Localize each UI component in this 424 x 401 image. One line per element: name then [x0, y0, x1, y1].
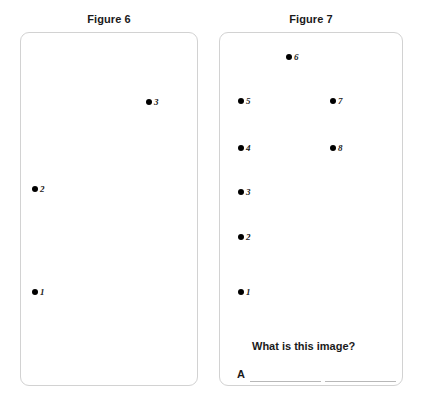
dot-marker-icon — [286, 54, 292, 60]
answer-write-line-2[interactable] — [325, 381, 396, 382]
dot-number-label: 8 — [338, 143, 343, 153]
dot-marker-icon — [238, 98, 244, 104]
figure-6-title: Figure 6 — [20, 13, 198, 25]
dot-marker-icon — [330, 98, 336, 104]
question-prompt: What is this image? — [252, 340, 355, 352]
dot-number-label: 4 — [246, 143, 251, 153]
dot-number-label: 5 — [246, 96, 251, 106]
figure-6-panel — [20, 32, 198, 386]
worksheet-canvas: Figure 6 Figure 7 32165748321 What is th… — [0, 0, 424, 401]
dot-marker-icon — [238, 289, 244, 295]
figure-7-title: Figure 7 — [219, 13, 403, 25]
dot-number-label: 6 — [294, 52, 299, 62]
dot-number-label: 7 — [338, 96, 343, 106]
dot-number-label: 2 — [246, 232, 251, 242]
figure-7-panel — [219, 32, 403, 386]
dot-number-label: 2 — [40, 184, 45, 194]
dot-marker-icon — [238, 234, 244, 240]
dot-number-label: 3 — [154, 97, 159, 107]
dot-number-label: 1 — [246, 287, 251, 297]
answer-prefix-label: A — [237, 368, 245, 380]
dot-marker-icon — [238, 189, 244, 195]
dot-number-label: 1 — [40, 287, 45, 297]
dot-marker-icon — [330, 145, 336, 151]
dot-marker-icon — [32, 186, 38, 192]
dot-marker-icon — [146, 99, 152, 105]
dot-number-label: 3 — [246, 187, 251, 197]
answer-write-line-1[interactable] — [250, 381, 321, 382]
dot-marker-icon — [32, 289, 38, 295]
answer-row: A — [237, 368, 399, 384]
dot-marker-icon — [238, 145, 244, 151]
